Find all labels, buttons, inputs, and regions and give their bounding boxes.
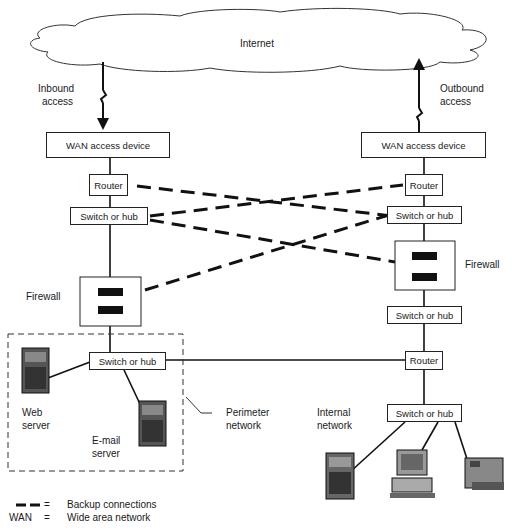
right-switch-or-hub-middle[interactable]: Switch or hub	[387, 306, 462, 324]
email-server-line1: E-mail	[92, 434, 120, 447]
email-server-icon	[139, 401, 166, 446]
outbound-line1: Outbound	[440, 82, 484, 95]
email-server-label: E-mail server	[92, 434, 120, 460]
left-firewall-box	[80, 277, 141, 326]
right-wan-access-device[interactable]: WAN access device	[361, 132, 486, 158]
left-wan-access-device[interactable]: WAN access device	[46, 132, 170, 158]
internal-line2: network	[317, 419, 352, 432]
web-server-icon	[22, 348, 49, 393]
perimeter-network-label: Perimeter network	[226, 406, 269, 432]
left-router[interactable]: Router	[89, 174, 128, 196]
web-server-line2: server	[22, 419, 50, 432]
perimeter-switch-or-hub[interactable]: Switch or hub	[89, 352, 166, 370]
internal-network-label: Internal network	[317, 406, 352, 432]
legend-backup-text: Backup connections	[67, 498, 157, 511]
internet-label: Internet	[240, 37, 274, 50]
legend-wan-text: Wide area network	[67, 511, 150, 524]
internal-line1: Internal	[317, 406, 352, 419]
printer-icon	[465, 458, 504, 490]
perimeter-line2: network	[226, 419, 269, 432]
network-diagram-lines	[0, 0, 512, 532]
left-switch-or-hub[interactable]: Switch or hub	[70, 207, 148, 225]
right-firewall-box	[395, 241, 455, 290]
right-router-top[interactable]: Router	[405, 174, 443, 196]
workstation-icon	[390, 450, 435, 498]
perimeter-line1: Perimeter	[226, 406, 269, 419]
backup-connection-lines	[137, 185, 403, 290]
inbound-line1: Inbound	[38, 82, 74, 95]
legend-wan-abbr: WAN	[9, 511, 32, 524]
outbound-line2: access	[440, 95, 484, 108]
internal-switch-or-hub[interactable]: Switch or hub	[387, 404, 462, 422]
internal-server-icon	[326, 453, 354, 499]
outbound-access-label: Outbound access	[440, 82, 484, 108]
email-server-line2: server	[92, 447, 120, 460]
legend-backup-equals: =	[44, 498, 50, 511]
legend-wan-equals: =	[44, 511, 50, 524]
web-server-label: Web server	[22, 406, 50, 432]
web-server-line1: Web	[22, 406, 50, 419]
left-firewall-label: Firewall	[26, 290, 60, 303]
right-switch-or-hub-top[interactable]: Switch or hub	[387, 206, 462, 224]
inbound-access-label: Inbound access	[38, 82, 74, 108]
right-firewall-label: Firewall	[465, 258, 499, 271]
internal-router[interactable]: Router	[405, 351, 443, 370]
inbound-line2: access	[38, 95, 74, 108]
